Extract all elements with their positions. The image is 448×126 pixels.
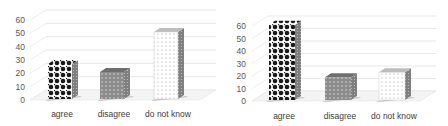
y-tick-label: 30 bbox=[16, 55, 26, 65]
x-category-label: agree bbox=[273, 111, 295, 121]
chart-left-canvas: 0102030405060agreedisagreedo not know bbox=[0, 0, 224, 126]
gridline-diagonal bbox=[30, 63, 46, 73]
chart-right: 0102030405060agreedisagreedo not know bbox=[224, 0, 448, 126]
y-tick-label: 60 bbox=[237, 21, 247, 31]
x-category-label: do not know bbox=[145, 109, 192, 119]
gridline-diagonal bbox=[252, 79, 268, 89]
y-tick-label: 60 bbox=[16, 15, 26, 25]
gridline-diagonal bbox=[30, 77, 46, 87]
gridline-diagonal bbox=[252, 66, 268, 76]
y-tick-label: 20 bbox=[16, 68, 26, 78]
bar-do-not-know bbox=[151, 28, 188, 101]
y-tick-label: 50 bbox=[237, 34, 247, 44]
gridline-diagonal bbox=[30, 50, 46, 60]
chart-left: 0102030405060agreedisagreedo not know bbox=[0, 0, 224, 126]
x-category-label: disagree bbox=[324, 111, 357, 121]
y-tick-label: 30 bbox=[237, 59, 247, 69]
y-tick-label: 10 bbox=[16, 82, 26, 92]
chart-right-canvas: 0102030405060agreedisagreedo not know bbox=[224, 0, 448, 126]
y-tick-label: 0 bbox=[20, 95, 25, 105]
gridline-diagonal bbox=[30, 23, 46, 33]
y-tick-label: 40 bbox=[16, 42, 26, 52]
x-category-label: do not know bbox=[371, 111, 418, 121]
gridline-diagonal bbox=[252, 16, 268, 26]
gridline-diagonal bbox=[30, 37, 46, 47]
gridline-diagonal bbox=[252, 54, 268, 64]
y-tick-label: 10 bbox=[237, 84, 247, 94]
gridline-diagonal bbox=[252, 29, 268, 39]
y-tick-label: 50 bbox=[16, 28, 26, 38]
gridline-diagonal bbox=[252, 41, 268, 51]
y-tick-label: 40 bbox=[237, 46, 247, 56]
bar-agree bbox=[266, 21, 305, 102]
bar-disagree bbox=[322, 73, 361, 102]
bar-agree bbox=[45, 60, 82, 101]
x-category-label: agree bbox=[51, 109, 73, 119]
x-category-label: disagree bbox=[98, 109, 131, 119]
y-tick-label: 0 bbox=[241, 96, 246, 106]
bar-do-not-know bbox=[376, 68, 415, 102]
gridline-diagonal bbox=[30, 10, 46, 20]
y-tick-label: 20 bbox=[237, 71, 247, 81]
